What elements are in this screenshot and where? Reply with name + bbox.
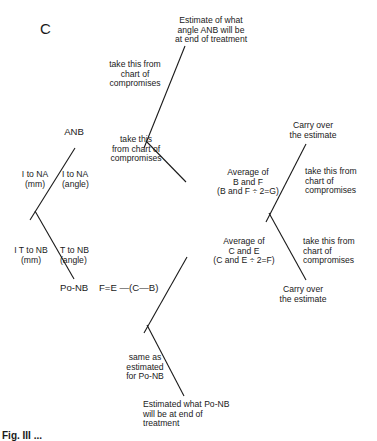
t-to-nb-angle-label: T to NB (angle) [60,246,102,265]
right-lower-chart-label: take this from chart of compromises [303,237,373,266]
formula-label: F=E —(C—B) [99,283,158,293]
panel-letter: C [40,24,51,34]
po-nb-label: Po-NB [60,283,88,293]
average-c-e-label: Average of C and E (C and E ÷ 2=F) [202,237,286,266]
right-top-carry-label: Carry over the estimate [278,121,348,140]
figure-caption: Fig. III ... [2,430,42,441]
bottom-result-label: Estimated what Po-NB will be at end of t… [143,400,253,429]
same-as-po-nb-label: same as estimated for Po-NB [120,353,170,382]
anb-label: ANB [59,127,89,137]
t-to-nb-mm-label: I T to NB (mm) [11,246,51,265]
right-bottom-carry-label: Carry over the estimate [268,285,338,304]
bottom-upper-branch [144,257,187,333]
top-result-label: Estimate of what angle ANB will be at en… [151,16,271,45]
average-b-f-label: Average of B and F (B and F ÷ 2=G) [206,168,290,197]
top-upper-branch-label: take this from chart of compromises [104,60,166,89]
i-to-na-angle-label: I to NA (angle) [62,170,102,189]
right-upper-chart-label: take this from chart of compromises [305,167,375,196]
top-lower-branch-label: take this from chart of compromises [105,135,167,164]
i-to-na-mm-label: I to NA (mm) [18,170,52,189]
